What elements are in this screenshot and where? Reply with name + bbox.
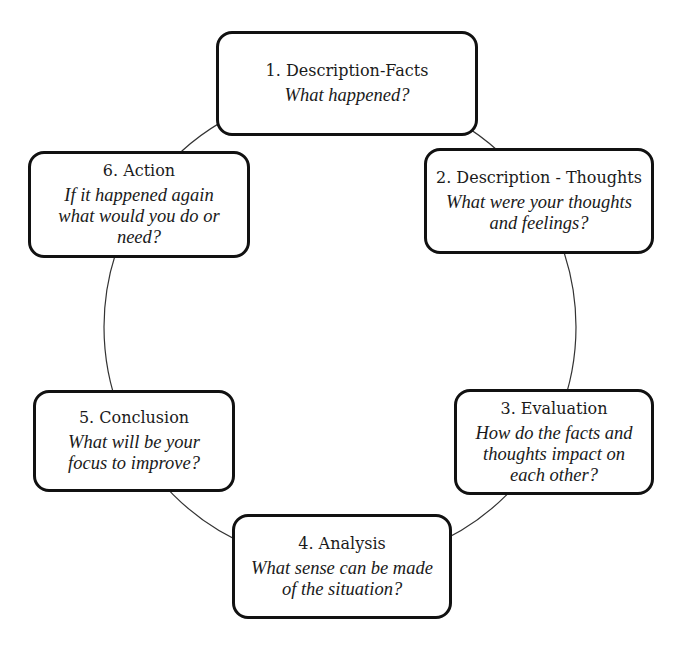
step-question: If it happened again what would you do o… <box>44 185 234 248</box>
step-1-description-facts: 1. Description-Facts What happened? <box>216 31 478 136</box>
step-title: 6. Action <box>103 161 175 181</box>
step-4-analysis: 4. Analysis What sense can be made of th… <box>232 514 452 619</box>
step-title: 5. Conclusion <box>79 408 189 428</box>
step-question: How do the facts and thoughts impact on … <box>464 423 644 486</box>
step-title: 4. Analysis <box>298 534 385 554</box>
step-title: 3. Evaluation <box>500 399 607 419</box>
step-5-conclusion: 5. Conclusion What will be your focus to… <box>33 390 235 492</box>
step-question: What will be your focus to improve? <box>49 432 219 474</box>
step-title: 2. Description - Thoughts <box>436 168 642 188</box>
step-title: 1. Description-Facts <box>266 61 429 81</box>
step-2-description-thoughts: 2. Description - Thoughts What were your… <box>424 148 654 254</box>
step-question: What were your thoughts and feelings? <box>444 192 634 234</box>
step-6-action: 6. Action If it happened again what woul… <box>28 151 250 258</box>
step-question: What sense can be made of the situation? <box>242 558 442 600</box>
step-question: What happened? <box>285 85 410 106</box>
step-3-evaluation: 3. Evaluation How do the facts and thoug… <box>454 389 654 495</box>
